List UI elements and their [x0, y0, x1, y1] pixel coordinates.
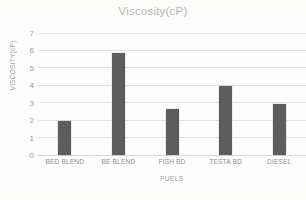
- x-tick-label: FISH BD: [158, 158, 185, 165]
- bar: [166, 109, 179, 155]
- chart-title: Viscosity(cP): [0, 5, 306, 17]
- x-tick-label: BE BLEND: [101, 158, 135, 165]
- y-axis-tick-labels: 01234567: [4, 33, 34, 155]
- x-tick-label: BED BLEND: [45, 158, 84, 165]
- y-tick-label: 4: [8, 81, 34, 90]
- y-tick-label: 0: [8, 151, 34, 160]
- gridline-7: [38, 33, 306, 34]
- y-tick-label: 3: [8, 98, 34, 107]
- gridline-6: [38, 50, 306, 51]
- x-tick-label: DIESEL: [267, 158, 291, 165]
- viscosity-bar-chart: Viscosity(cP) VISCOSITY(cP) 01234567 BED…: [0, 0, 306, 200]
- y-tick-label: 2: [8, 116, 34, 125]
- x-tick-label: TESTA BD: [209, 158, 242, 165]
- y-tick-label: 5: [8, 63, 34, 72]
- y-tick-label: 6: [8, 46, 34, 55]
- y-tick-label: 7: [8, 29, 34, 38]
- x-axis-title: FUELS: [38, 175, 306, 182]
- x-axis-tick-labels: BED BLENDBE BLENDFISH BDTESTA BDDIESEL: [38, 158, 306, 170]
- bar: [273, 104, 286, 155]
- gridline-4: [38, 85, 306, 86]
- bar: [112, 53, 125, 155]
- y-tick-label: 1: [8, 133, 34, 142]
- gridline-3: [38, 102, 306, 103]
- plot-area: [38, 33, 306, 155]
- bar: [58, 121, 71, 155]
- gridline-5: [38, 67, 306, 68]
- bar: [219, 86, 232, 155]
